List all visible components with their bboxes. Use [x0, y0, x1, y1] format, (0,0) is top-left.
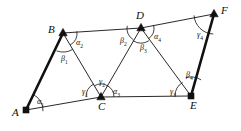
angle-subscript-a2: 2	[80, 43, 83, 49]
angle-arc-b2	[127, 26, 133, 40]
vertex-marker-B	[59, 28, 67, 35]
angle-subscript-g2: 2	[102, 82, 105, 88]
angle-subscript-g1: 1	[85, 92, 88, 98]
angle-subscript-g3: 3	[173, 92, 176, 98]
edge-DF	[141, 14, 214, 28]
angle-label-g3: γ3	[170, 88, 176, 98]
angle-label-g2: γ2	[99, 78, 105, 88]
angle-subscript-b3: 3	[144, 48, 147, 54]
angle-subscript-b2: 2	[124, 41, 127, 47]
vertex-label-B: B	[48, 24, 55, 35]
angle-subscript-b1: 1	[65, 59, 68, 65]
angle-label-a2: α2	[76, 39, 83, 49]
vertex-marker-C	[97, 92, 105, 99]
angle-subscript-a3: 3	[117, 92, 120, 98]
angle-subscript-a4: 4	[158, 37, 161, 43]
vertex-label-D: D	[136, 10, 144, 21]
angle-label-b2: β2	[120, 37, 127, 47]
edge-AB	[26, 33, 63, 110]
angle-label-b3: β3	[140, 44, 147, 54]
angle-subscript-g4: 4	[200, 35, 203, 41]
angle-label-b4: β4	[186, 71, 193, 81]
geometry-figure: ABCDEFα1α2α3α4β1β2β3β4γ1γ2γ3γ4	[0, 0, 241, 131]
angle-label-a4: α4	[154, 33, 161, 43]
vertex-label-E: E	[190, 100, 197, 111]
vertex-label-C: C	[98, 101, 105, 112]
vertex-marker-A	[23, 107, 29, 113]
edge-BD	[63, 28, 141, 33]
angle-subscript-b4: 4	[190, 75, 193, 81]
angle-label-a1: α1	[37, 98, 44, 108]
edge-EF	[191, 14, 214, 96]
vertex-label-A: A	[12, 107, 19, 118]
vertex-label-F: F	[221, 5, 228, 16]
angle-arc-b1	[57, 49, 73, 52]
angle-label-g1: γ1	[82, 88, 88, 98]
angle-subscript-a1: 1	[41, 102, 44, 108]
vertex-marker-F	[210, 9, 218, 16]
angle-arc-g3	[175, 82, 183, 96]
diagram-canvas	[0, 0, 241, 131]
angle-label-g4: γ4	[197, 31, 203, 41]
angle-label-a3: α3	[113, 88, 120, 98]
angle-label-b1: β1	[61, 55, 68, 65]
